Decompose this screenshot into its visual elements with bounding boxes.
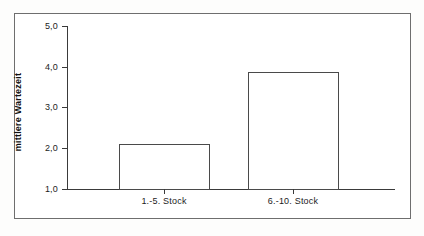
bar-6-10-stock[interactable]: [248, 72, 339, 190]
x-axis-category-label-1: 1.-5. Stock: [104, 196, 224, 207]
y-tick-label-2: 2,0: [18, 144, 58, 153]
y-tick-label-5: 5,0: [18, 22, 58, 31]
bar-1-5-stock[interactable]: [119, 144, 210, 190]
x-tick-mark-1: [164, 189, 165, 194]
y-tick-mark-5: [62, 26, 67, 27]
x-axis-line: [67, 189, 395, 190]
y-tick-label-3: 3,0: [18, 103, 58, 112]
y-tick-mark-4: [62, 67, 67, 68]
y-tick-label-1: 1,0: [18, 185, 58, 194]
y-tick-label-4: 4,0: [18, 63, 58, 72]
y-axis-line: [67, 26, 68, 190]
bar-value-2: 3.87: [0, 0, 1, 1]
y-tick-mark-3: [62, 107, 67, 108]
x-axis-category-label-2: 6.-10. Stock: [233, 196, 353, 207]
bar-value-1: 2.1: [0, 0, 1, 1]
y-tick-mark-2: [62, 148, 67, 149]
x-tick-mark-2: [293, 189, 294, 194]
y-tick-mark-1: [62, 189, 67, 190]
plot-area: mittlere Wartezeit 1,0 2,0 3,0 4,0 5,0 1…: [0, 0, 424, 236]
bar-chart-figure: mittlere Wartezeit 1,0 2,0 3,0 4,0 5,0 1…: [0, 0, 424, 236]
